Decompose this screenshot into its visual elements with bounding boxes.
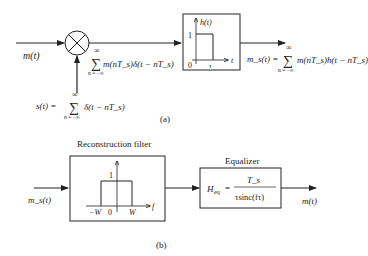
reconstruction-filter-block: 1 −W 0 W f	[70, 156, 165, 221]
equalizer-den: τsinc(fτ)	[235, 192, 264, 202]
hold-block: h(t) 1 0 τ t	[183, 14, 240, 70]
output-label: m(t)	[302, 196, 317, 206]
filter-neg-w: −W	[89, 208, 102, 217]
hold-one: 1	[188, 31, 192, 40]
output-lhs: m_s(t) =	[247, 54, 278, 64]
sampled-signal-expr: m(nT_s)δ(t − nT_s)	[103, 59, 174, 69]
equalizer-eq: =	[225, 183, 230, 193]
equalizer-sub: eq	[214, 189, 220, 195]
sum-upper: ∞	[94, 46, 100, 55]
multiplier-icon	[65, 31, 89, 55]
output-rhs: m(nT_s)h(t − nT_s)	[297, 55, 368, 65]
sampling-signal-lhs: s(t) =	[36, 101, 56, 111]
figure-b: m_s(t) Reconstruction filter 1 −W 0 W f …	[28, 139, 317, 250]
equalizer-block: H eq = T_s τsinc(fτ)	[200, 168, 281, 208]
diagram-svg: m(t) ∞ ∑ n = −∞ m(nT_s)δ(t − nT_s) s(t) …	[0, 0, 368, 256]
sum-symbol: ∑	[91, 56, 101, 71]
equalizer-num: T_s	[247, 175, 261, 185]
filter-title: Reconstruction filter	[77, 139, 151, 149]
hold-y-label: h(t)	[200, 18, 212, 27]
sampling-signal-rhs: δ(t − nT_s)	[84, 102, 125, 112]
sum-lower: n = −∞	[278, 67, 294, 73]
figure-a: m(t) ∞ ∑ n = −∞ m(nT_s)δ(t − nT_s) s(t) …	[16, 14, 368, 124]
sampling-diagram: m(t) ∞ ∑ n = −∞ m(nT_s)δ(t − nT_s) s(t) …	[0, 0, 368, 256]
equalizer-h: H	[206, 184, 214, 194]
hold-zero: 0	[188, 61, 192, 70]
sum-symbol: ∑	[69, 100, 79, 115]
equalizer-title: Equalizer	[225, 156, 259, 166]
input-label: m_s(t)	[28, 195, 51, 205]
sum-symbol: ∑	[283, 53, 293, 68]
sum-lower: n = −∞	[88, 70, 104, 76]
filter-one: 1	[109, 171, 113, 180]
input-label: m(t)	[23, 50, 40, 62]
sum-lower: n = −∞	[64, 114, 80, 120]
sum-upper: ∞	[286, 43, 292, 52]
sum-upper: ∞	[72, 90, 78, 99]
caption-b: (b)	[156, 240, 167, 250]
caption-a: (a)	[160, 114, 170, 124]
filter-zero: 0	[108, 208, 112, 217]
